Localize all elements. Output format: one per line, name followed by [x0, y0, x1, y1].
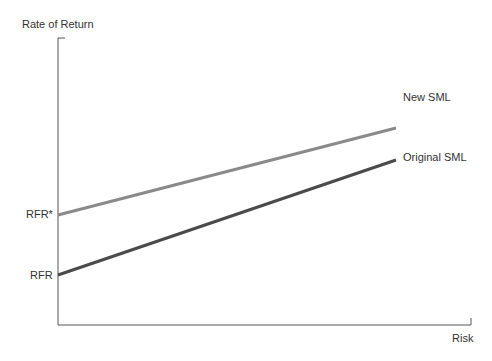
rfr-star-label: RFR*: [26, 209, 53, 220]
y-axis-title: Rate of Return: [22, 19, 94, 30]
original-sml-label: Original SML: [403, 152, 467, 163]
x-axis-title: Risk: [452, 333, 473, 344]
sml-chart: [0, 0, 492, 361]
new-sml-line: [58, 128, 396, 215]
original-sml-line: [58, 160, 396, 275]
new-sml-label: New SML: [403, 92, 451, 103]
rfr-label: RFR: [30, 270, 53, 281]
